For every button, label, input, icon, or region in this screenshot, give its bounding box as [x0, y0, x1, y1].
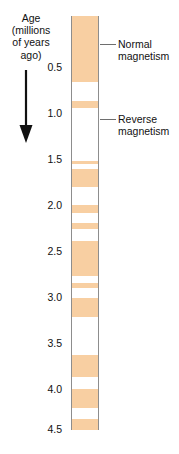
polarity-band	[72, 241, 98, 276]
polarity-band	[72, 108, 98, 161]
axis-tick-1: 1.0	[24, 108, 62, 119]
age-heading-line-3: of years	[0, 36, 62, 48]
polarity-timescale-figure: Age (millions of years ago) 0.5 1.0 1.5 …	[0, 0, 179, 454]
polarity-band	[72, 419, 98, 430]
callout-normal-text: Normal magnetism	[118, 38, 169, 62]
polarity-band	[72, 408, 98, 419]
callout-reverse-line-2: magnetism	[118, 125, 169, 137]
polarity-band	[72, 377, 98, 389]
polarity-band	[72, 187, 98, 204]
polarity-band	[72, 298, 98, 317]
age-axis-heading: Age (millions of years ago)	[0, 12, 62, 61]
callout-normal-line-2: magnetism	[118, 50, 169, 62]
callout-leader-line-normal	[100, 44, 116, 45]
polarity-band	[72, 229, 98, 242]
polarity-band	[72, 169, 98, 187]
axis-tick-2: 1.5	[24, 154, 62, 165]
polarity-band	[72, 317, 98, 356]
callout-reverse-magnetism: Reverse magnetism	[100, 113, 169, 137]
callout-normal-line-1: Normal	[118, 38, 152, 50]
axis-tick-7: 4.0	[24, 384, 62, 395]
axis-tick-3: 2.0	[24, 200, 62, 211]
polarity-band	[72, 276, 98, 282]
age-increasing-arrow-icon	[12, 70, 40, 144]
polarity-band	[72, 82, 98, 100]
callout-leader-line-reverse	[100, 119, 116, 120]
callout-normal-magnetism: Normal magnetism	[100, 38, 169, 62]
axis-tick-6: 3.5	[24, 338, 62, 349]
polarity-band	[72, 213, 98, 223]
callout-reverse-text: Reverse magnetism	[118, 113, 169, 137]
age-heading-line-2: (millions	[0, 24, 62, 36]
polarity-band	[72, 288, 98, 297]
polarity-band	[72, 205, 98, 213]
polarity-band	[72, 16, 98, 82]
callout-reverse-line-1: Reverse	[118, 113, 157, 125]
axis-tick-0: 0.5	[24, 62, 62, 73]
polarity-band	[72, 355, 98, 376]
polarity-band	[72, 389, 98, 408]
age-heading-line-1: Age	[0, 12, 62, 24]
axis-tick-5: 3.0	[24, 292, 62, 303]
polarity-band	[72, 101, 98, 108]
axis-tick-8: 4.5	[24, 424, 62, 435]
polarity-band	[72, 164, 98, 169]
polarity-column	[71, 16, 99, 430]
axis-tick-4: 2.5	[24, 246, 62, 257]
age-heading-line-4: ago)	[0, 49, 62, 61]
